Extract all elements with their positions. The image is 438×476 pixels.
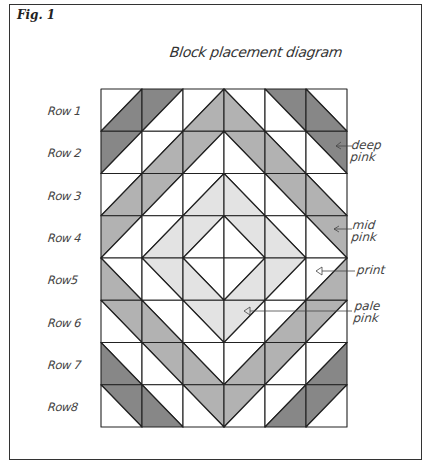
callout-mid-pink: mid pink: [351, 219, 379, 243]
callout-print-line1: print: [356, 264, 385, 276]
callout-mid-pink-line2: pink: [351, 231, 378, 243]
grid-cells: [101, 89, 347, 427]
callout-deep-pink: deep pink: [350, 139, 383, 163]
callout-print: print: [356, 264, 385, 276]
callout-deep-pink-line2: pink: [350, 151, 381, 163]
callout-pale-pink: pale pink: [353, 300, 381, 324]
callout-pale-pink-line2: pink: [353, 312, 380, 324]
